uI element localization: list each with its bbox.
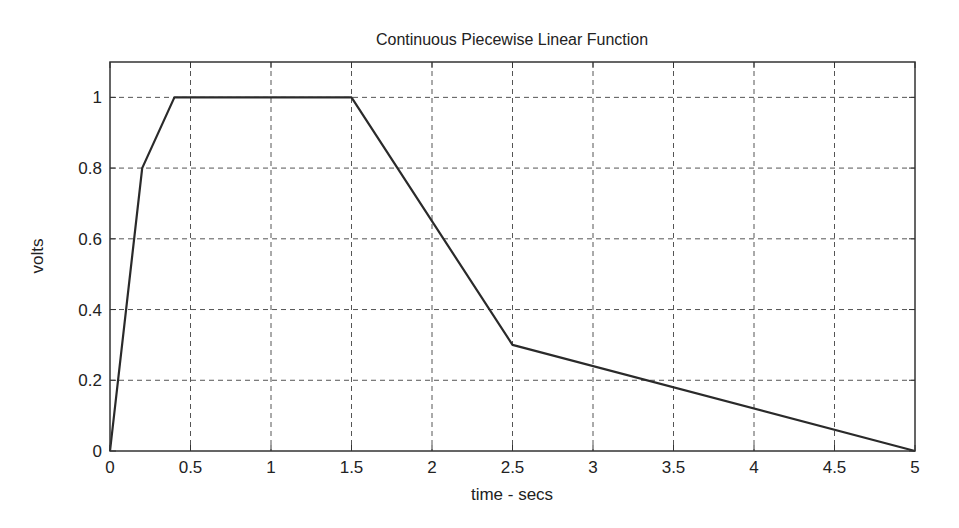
x-tick-label: 0.5	[179, 458, 203, 477]
x-axis-label: time - secs	[471, 485, 553, 504]
x-tick-label: 1.5	[340, 458, 364, 477]
x-tick-label: 4	[749, 458, 758, 477]
x-tick-label: 4.5	[823, 458, 847, 477]
grid-lines	[110, 62, 915, 451]
x-tick-label: 1	[266, 458, 275, 477]
chart-title: Continuous Piecewise Linear Function	[376, 31, 648, 48]
x-tick-label: 3.5	[662, 458, 686, 477]
x-tick-label: 2	[427, 458, 436, 477]
x-tick-label: 5	[910, 458, 919, 477]
y-tick-label: 0	[93, 442, 102, 461]
x-tick-label: 2.5	[501, 458, 525, 477]
x-tick-label: 0	[105, 458, 114, 477]
y-tick-label: 0.8	[78, 159, 102, 178]
y-tick-label: 0.4	[78, 301, 102, 320]
y-tick-label: 0.2	[78, 371, 102, 390]
y-axis-label: volts	[28, 239, 47, 274]
y-axis-ticks: 00.20.40.60.81	[78, 88, 915, 461]
y-tick-label: 1	[93, 88, 102, 107]
y-tick-label: 0.6	[78, 230, 102, 249]
x-tick-label: 3	[588, 458, 597, 477]
line-chart: Continuous Piecewise Linear Function 00.…	[0, 0, 959, 528]
